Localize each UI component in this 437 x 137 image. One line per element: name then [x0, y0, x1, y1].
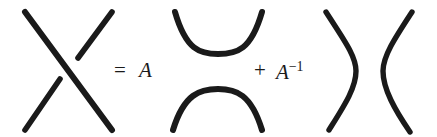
coefficient-a-inverse-exponent: −1: [289, 59, 303, 74]
coefficient-a-inverse-base: A: [276, 60, 289, 84]
equals-sign: =: [114, 60, 126, 81]
skein-relation-figure: = A + A−1: [0, 0, 437, 137]
plus-sign: +: [254, 60, 266, 81]
coefficient-a-inverse: A−1: [276, 60, 303, 83]
skein-relation-diagram: [0, 0, 437, 137]
coefficient-a: A: [139, 60, 152, 81]
